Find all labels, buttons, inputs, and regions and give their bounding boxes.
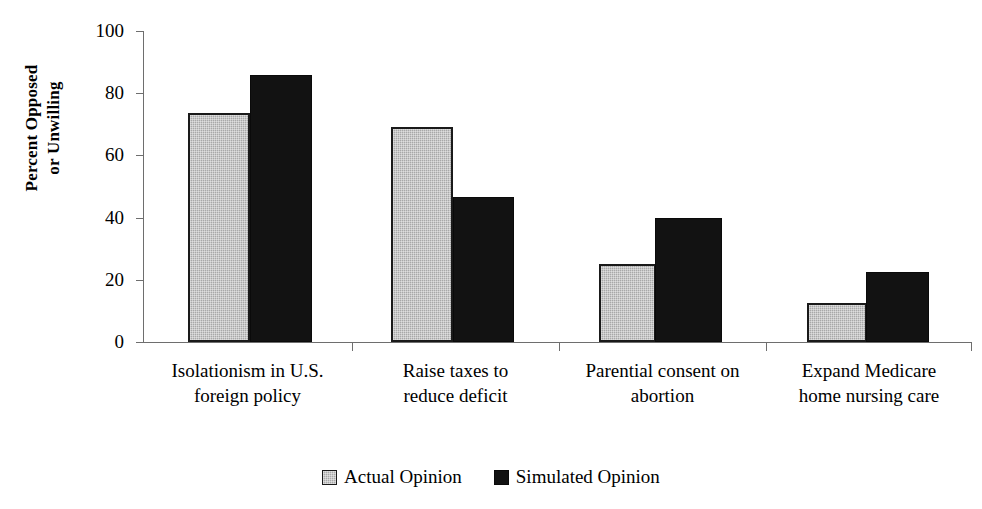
legend-item-actual-opinion[interactable]: Actual Opinion (322, 466, 462, 488)
y-axis-title-line-1: Percent Opposed (21, 65, 43, 192)
y-tick-label-100: 100 (80, 20, 124, 42)
x-category-label-1-line-2: foreign policy (143, 383, 352, 408)
bar-simulated-3[interactable] (655, 218, 722, 342)
legend-label-simulated-opinion: Simulated Opinion (516, 466, 660, 488)
x-category-label-4: Expand Medicare home nursing care (766, 358, 972, 409)
x-category-label-3-line-1: Parential consent on (559, 358, 766, 383)
x-tick-1 (352, 342, 353, 351)
y-tick-0: 0 (136, 342, 144, 343)
x-category-label-2-line-2: reduce deficit (352, 383, 559, 408)
y-tick-80: 80 (136, 93, 144, 94)
bar-actual-2[interactable] (391, 127, 453, 342)
x-tick-4 (971, 342, 972, 351)
y-axis-line (143, 31, 144, 342)
gray-swatch-icon (322, 470, 337, 485)
y-tick-label-20: 20 (80, 269, 124, 291)
bar-chart: Percent Opposed or Unwilling 100 80 60 4… (0, 0, 982, 509)
x-category-label-3-line-2: abortion (559, 383, 766, 408)
y-tick-label-60: 60 (80, 144, 124, 166)
x-category-label-1: Isolationism in U.S. foreign policy (143, 358, 352, 409)
y-tick-60: 60 (136, 155, 144, 156)
y-axis-title: Percent Opposed or Unwilling (3, 23, 83, 233)
black-swatch-icon (494, 470, 509, 485)
bar-actual-4[interactable] (807, 303, 867, 342)
bar-actual-1[interactable] (188, 113, 250, 342)
bar-simulated-4[interactable] (866, 272, 929, 342)
x-category-label-4-line-2: home nursing care (766, 383, 972, 408)
x-category-label-2: Raise taxes to reduce deficit (352, 358, 559, 409)
y-tick-40: 40 (136, 218, 144, 219)
bar-simulated-2[interactable] (453, 197, 514, 342)
legend-label-actual-opinion: Actual Opinion (344, 466, 462, 488)
x-tick-2 (559, 342, 560, 351)
plot-area: 100 80 60 40 20 0 (143, 31, 972, 342)
x-category-label-3: Parential consent on abortion (559, 358, 766, 409)
y-tick-100: 100 (136, 31, 144, 32)
legend-item-simulated-opinion[interactable]: Simulated Opinion (494, 466, 660, 488)
y-tick-20: 20 (136, 280, 144, 281)
x-axis-line (143, 342, 972, 343)
y-tick-label-80: 80 (80, 82, 124, 104)
x-tick-3 (766, 342, 767, 351)
x-category-label-2-line-1: Raise taxes to (352, 358, 559, 383)
y-tick-label-0: 0 (80, 331, 124, 353)
y-axis-title-line-2: or Unwilling (43, 81, 65, 174)
chart-legend: Actual Opinion Simulated Opinion (0, 466, 982, 488)
x-category-label-4-line-1: Expand Medicare (766, 358, 972, 383)
x-category-label-1-line-1: Isolationism in U.S. (143, 358, 352, 383)
y-tick-label-40: 40 (80, 207, 124, 229)
bar-actual-3[interactable] (599, 264, 656, 342)
bar-simulated-1[interactable] (250, 75, 312, 342)
